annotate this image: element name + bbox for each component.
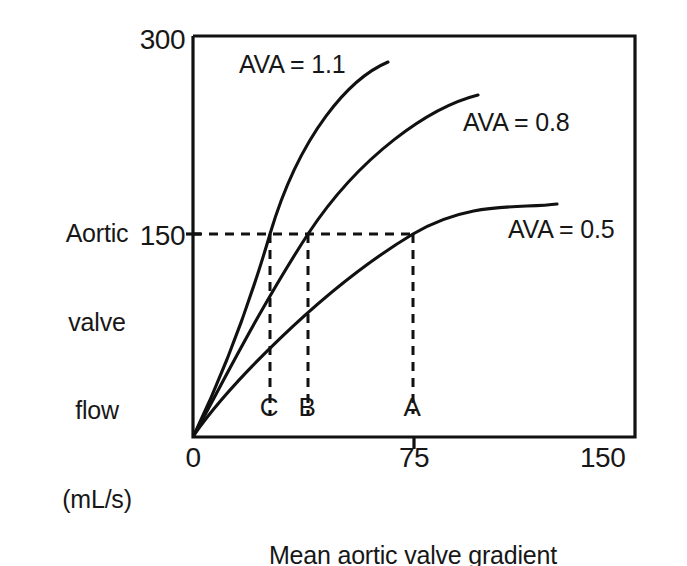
series-label-ava-0-5: AVA = 0.5 [508, 215, 614, 245]
curve-ava-0-5 [194, 204, 557, 435]
reference-lines [193, 234, 414, 414]
y-axis-title-line-3: flow [22, 396, 172, 426]
y-axis-title-line-4: (mL/s) [22, 485, 172, 515]
x-axis-title: Mean aortic valve gradient (mm Hg) [153, 482, 673, 566]
y-tick-label-150: 150 [113, 219, 185, 252]
y-axis-title-line-2: valve [22, 308, 172, 338]
point-label-c: C [254, 392, 284, 423]
series-label-ava-0-8: AVA = 0.8 [463, 108, 569, 138]
x-tick-label-150: 150 [580, 441, 640, 474]
aortic-valve-flow-chart: Aortic valve flow (mL/s) 300 150 0 75 15… [0, 0, 687, 566]
point-label-b: B [292, 392, 322, 423]
series-label-ava-1-1: AVA = 1.1 [239, 50, 345, 80]
x-tick-label-75: 75 [382, 441, 446, 474]
x-axis-title-line-1: Mean aortic valve gradient [153, 541, 673, 566]
y-tick-label-300: 300 [113, 23, 185, 56]
x-tick-label-0: 0 [178, 441, 208, 474]
point-label-a: A [397, 392, 427, 423]
